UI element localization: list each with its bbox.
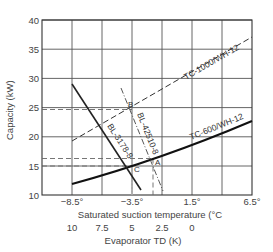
point-label-b: B	[128, 100, 133, 109]
secondary-x-axis-ticks: 10 7.5 5 2.5 0	[67, 222, 195, 233]
svg-text:7.5: 7.5	[95, 222, 108, 233]
svg-text:−8.5°: −8.5°	[61, 196, 84, 207]
point-label-c: C	[134, 165, 140, 174]
y-axis-ticks: 40 35 30 25 20 15 10	[28, 15, 39, 201]
svg-text:5: 5	[129, 222, 134, 233]
x-axis-ticks: −8.5° −3.5° 1.5° 6.5°	[61, 196, 261, 207]
svg-text:30: 30	[28, 73, 39, 84]
svg-text:6.5°: 6.5°	[243, 196, 260, 207]
svg-text:0: 0	[189, 222, 194, 233]
svg-text:15: 15	[28, 161, 39, 172]
y-axis-label: Capacity (kW)	[4, 80, 15, 140]
svg-text:−3.5°: −3.5°	[121, 196, 144, 207]
x-axis-label: Saturated suction temperature (°C	[78, 209, 222, 220]
svg-text:25: 25	[28, 102, 39, 113]
svg-text:20: 20	[28, 131, 39, 142]
label-bl42510: BL-42510-8	[135, 111, 161, 156]
svg-text:1.5°: 1.5°	[183, 196, 200, 207]
secondary-x-axis-label: Evaporator TD (K)	[105, 235, 182, 246]
svg-text:2.5: 2.5	[155, 222, 168, 233]
svg-text:35: 35	[28, 44, 39, 55]
svg-text:40: 40	[28, 15, 39, 26]
point-label-a: A	[155, 158, 161, 167]
svg-text:10: 10	[67, 222, 78, 233]
label-tc1000: TC-1000/WH-12	[182, 42, 241, 82]
capacity-chart: B A C TC-1000/WH-12 TC-600/WH-12 BL-3178…	[0, 0, 273, 252]
grid	[42, 20, 252, 195]
svg-text:10: 10	[28, 190, 39, 201]
